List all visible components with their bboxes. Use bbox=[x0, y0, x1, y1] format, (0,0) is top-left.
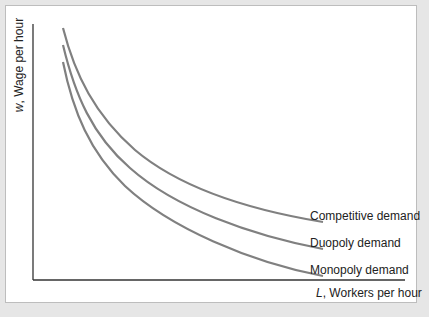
label-duopoly-demand: Duopoly demand bbox=[310, 236, 401, 250]
x-axis-label: L, Workers per hour bbox=[316, 286, 422, 300]
duopoly-demand-curve bbox=[63, 45, 323, 249]
competitive-demand-curve bbox=[63, 28, 323, 222]
y-axis-label: w, Wage per hour bbox=[12, 18, 26, 112]
label-competitive-demand: Competitive demand bbox=[310, 209, 420, 223]
monopoly-demand-curve bbox=[63, 62, 323, 276]
label-monopoly-demand: Monopoly demand bbox=[310, 263, 409, 277]
